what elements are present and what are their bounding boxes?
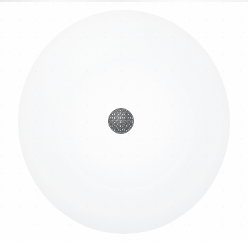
- granular-core: [108, 108, 134, 134]
- core-speckle-texture: [109, 109, 133, 133]
- micrograph-canvas: Concentric halo micrograph granular cent…: [0, 0, 248, 241]
- top-scan-line-artifact: [0, 0, 248, 2]
- core-disk: [108, 108, 134, 134]
